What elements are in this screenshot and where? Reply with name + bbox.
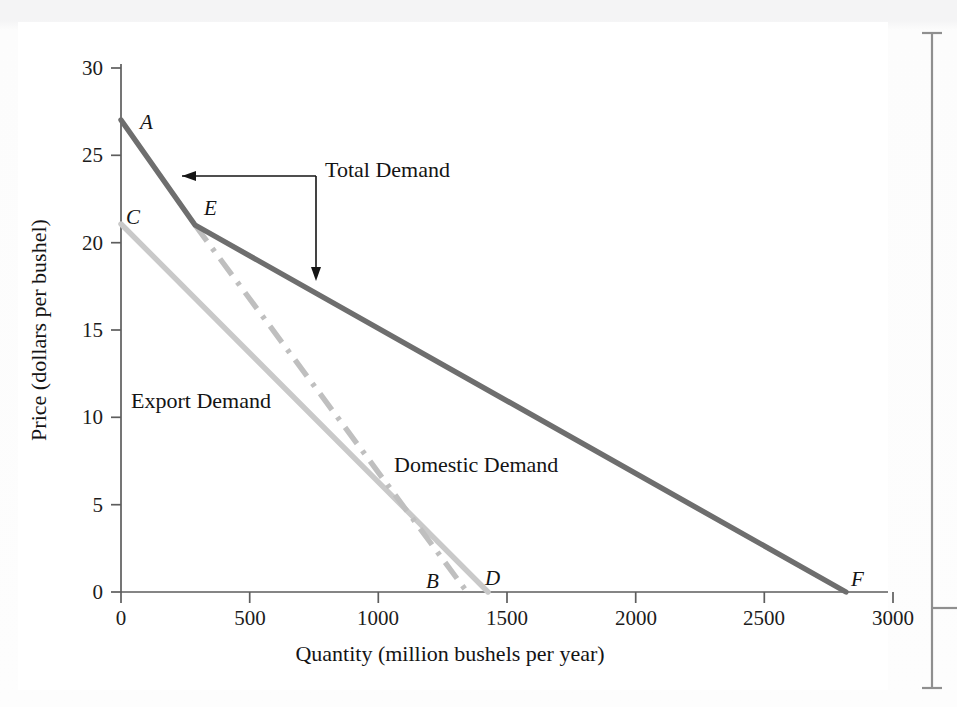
demand-chart: 0 5 10 15 20 25 30 0 500 1000 1500 2000 …	[0, 0, 957, 707]
x-axis-title: Quantity (million bushels per year)	[295, 641, 604, 666]
callout-arrowhead-left	[182, 171, 196, 181]
y-tick-marks	[111, 68, 121, 592]
total-demand-label: Total Demand	[325, 157, 450, 182]
y-tick-label-0: 0	[93, 580, 104, 604]
point-label-a: A	[138, 110, 153, 134]
y-tick-label-15: 15	[82, 318, 103, 342]
domestic-demand-label: Domestic Demand	[394, 452, 558, 477]
y-axis-title: Price (dollars per bushel)	[26, 219, 51, 441]
point-label-c: C	[126, 205, 141, 229]
point-label-f: F	[850, 567, 864, 591]
x-tick-labels: 0 500 1000 1500 2000 2500 3000	[116, 606, 914, 630]
total-demand-line	[121, 120, 846, 592]
callout-arrowhead-down	[311, 267, 321, 281]
figure-page: 0 5 10 15 20 25 30 0 500 1000 1500 2000 …	[0, 0, 957, 707]
export-demand-label: Export Demand	[131, 388, 271, 413]
y-tick-label-5: 5	[93, 493, 104, 517]
x-tick-label-500: 500	[234, 606, 266, 630]
y-tick-label-30: 30	[82, 56, 103, 80]
y-tick-label-10: 10	[82, 405, 103, 429]
point-label-b: B	[426, 569, 439, 593]
x-tick-label-3000: 3000	[872, 606, 914, 630]
point-label-d: D	[484, 566, 500, 590]
point-label-e: E	[203, 196, 217, 220]
y-tick-label-25: 25	[82, 143, 103, 167]
x-tick-marks	[121, 592, 893, 603]
x-tick-label-2000: 2000	[615, 606, 657, 630]
x-tick-label-2500: 2500	[743, 606, 785, 630]
x-tick-label-1000: 1000	[357, 606, 399, 630]
x-tick-label-1500: 1500	[486, 606, 528, 630]
y-tick-label-20: 20	[82, 231, 103, 255]
y-tick-labels: 0 5 10 15 20 25 30	[82, 56, 103, 604]
page-margin-bracket	[922, 33, 957, 688]
x-tick-label-0: 0	[116, 606, 127, 630]
total-demand-callout	[182, 171, 321, 281]
